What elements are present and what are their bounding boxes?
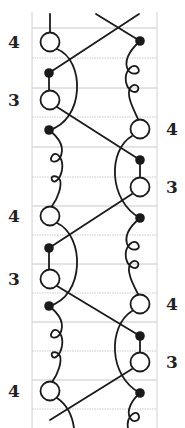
right-loops-2 bbox=[126, 218, 140, 294]
count-label-left: 3 bbox=[8, 90, 20, 110]
count-label-right: 3 bbox=[166, 352, 178, 372]
bottom-left-exit bbox=[57, 398, 74, 428]
weight-dot bbox=[135, 331, 145, 341]
weight-dot bbox=[135, 388, 145, 398]
left-loops-1 bbox=[49, 130, 62, 206]
weight-dot bbox=[135, 36, 145, 46]
count-label-right: 4 bbox=[166, 119, 178, 139]
count-label-right: 3 bbox=[166, 177, 178, 197]
weight-dot bbox=[44, 301, 54, 311]
bottom-right-exit bbox=[128, 393, 140, 428]
step-circle bbox=[131, 120, 150, 139]
step-circle bbox=[41, 33, 60, 52]
step-circle bbox=[41, 207, 60, 226]
diag-left2-right bbox=[57, 107, 140, 160]
count-label-left: 4 bbox=[8, 32, 20, 52]
top-cross-b bbox=[49, 14, 139, 73]
step-circle bbox=[131, 353, 150, 372]
step-circle bbox=[41, 382, 60, 401]
weight-dot bbox=[44, 68, 54, 78]
diag-right-left-1 bbox=[49, 194, 132, 248]
count-labels: 434344343 bbox=[8, 32, 178, 401]
count-label-right: 4 bbox=[166, 294, 178, 314]
step-circle bbox=[41, 91, 60, 110]
weight-dot bbox=[44, 125, 54, 135]
weight-dot bbox=[135, 155, 145, 165]
step-circle bbox=[131, 295, 150, 314]
count-label-left: 4 bbox=[8, 381, 20, 401]
count-label-left: 4 bbox=[8, 206, 20, 226]
count-label-left: 3 bbox=[8, 269, 20, 289]
diag-right-left-2 bbox=[50, 369, 132, 420]
step-circle bbox=[131, 178, 150, 197]
weight-dot bbox=[44, 243, 54, 253]
footwork-diagram: 434344343 bbox=[0, 0, 185, 428]
right-loops-1 bbox=[126, 41, 140, 119]
step-circle bbox=[41, 270, 60, 289]
left-loops-2 bbox=[49, 306, 62, 382]
weight-dot bbox=[135, 213, 145, 223]
paths bbox=[49, 14, 140, 428]
